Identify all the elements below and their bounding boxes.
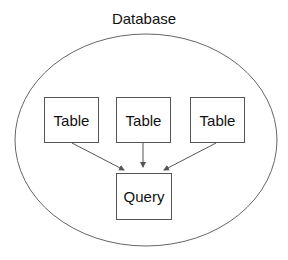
table-node-1: Table xyxy=(44,97,99,143)
edge-table3-query xyxy=(164,143,216,170)
query-node: Query xyxy=(116,173,172,220)
table-label: Table xyxy=(200,112,236,129)
table-node-2: Table xyxy=(116,97,171,143)
table-label: Table xyxy=(126,112,162,129)
table-label: Table xyxy=(54,112,90,129)
table-node-3: Table xyxy=(190,97,245,143)
query-label: Query xyxy=(124,188,165,205)
edge-table1-query xyxy=(72,143,124,170)
